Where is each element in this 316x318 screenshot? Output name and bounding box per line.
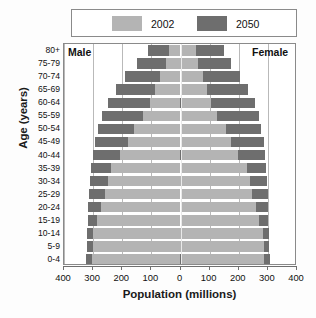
bar-2002-female <box>181 228 263 239</box>
age-tick-label: 75-79 <box>22 59 60 68</box>
x-axis-tick <box>180 266 181 270</box>
age-tick-label: 5-9 <box>22 242 60 251</box>
bar-2002-male <box>92 254 181 265</box>
age-tick-label: 15-19 <box>22 216 60 225</box>
bar-2002-male <box>160 71 180 82</box>
bar-2002-female <box>181 58 198 69</box>
bar-2002-female <box>181 45 196 56</box>
x-axis-tick <box>121 266 122 270</box>
pyramid-row <box>64 215 295 226</box>
bar-2002-male <box>93 241 180 252</box>
bar-2002-female <box>181 254 265 265</box>
male-side-label: Male <box>68 46 91 58</box>
center-line <box>181 44 182 264</box>
age-tick-label: 10-14 <box>22 229 60 238</box>
bar-2002-male <box>155 84 181 95</box>
bar-2002-female <box>181 137 231 148</box>
bar-2002-male <box>150 98 181 109</box>
pyramid-row <box>64 228 295 239</box>
age-tick-label: 70-74 <box>22 72 60 81</box>
age-tick-label: 30-34 <box>22 177 60 186</box>
legend-label-2002: 2002 <box>151 18 174 30</box>
bar-2002-male <box>128 137 180 148</box>
pyramid-row <box>64 150 295 161</box>
y-axis-tick-labels: 80+75-7970-7465-6960-6455-5950-5445-4940… <box>22 44 60 264</box>
chart-legend: 2002 2050 <box>71 9 297 37</box>
bar-2002-male <box>169 45 180 56</box>
x-axis-tick <box>63 266 64 270</box>
pyramid-row <box>64 98 295 109</box>
legend-swatch-2050 <box>197 16 227 31</box>
x-axis-tick <box>92 266 93 270</box>
age-tick-label: 80+ <box>22 46 60 55</box>
x-axis-tick <box>209 266 210 270</box>
pyramid-row <box>64 84 295 95</box>
x-axis-tick-label: 400 <box>276 272 316 283</box>
bar-2002-female <box>181 202 256 213</box>
age-tick-label: 0-4 <box>22 255 60 264</box>
female-side-label: Female <box>252 46 288 58</box>
bar-2002-female <box>181 84 208 95</box>
legend-item-2050: 2050 <box>197 15 259 32</box>
bar-2002-female <box>181 215 259 226</box>
age-tick-label: 60-64 <box>22 98 60 107</box>
age-tick-label: 45-49 <box>22 137 60 146</box>
bar-2002-male <box>143 111 180 122</box>
age-tick-label: 25-29 <box>22 190 60 199</box>
population-pyramid-figure: Age (years) 80+75-7970-7465-6960-6455-59… <box>0 0 316 318</box>
pyramid-row <box>64 163 295 174</box>
pyramid-row <box>64 111 295 122</box>
age-tick-label: 20-24 <box>22 203 60 212</box>
bar-2002-male <box>111 163 181 174</box>
x-axis-tick <box>150 266 151 270</box>
pyramid-row <box>64 254 295 265</box>
bar-2002-female <box>181 189 252 200</box>
bar-2002-male <box>93 228 180 239</box>
x-axis-tick <box>267 266 268 270</box>
bar-2002-female <box>181 150 239 161</box>
bar-2002-female <box>181 98 212 109</box>
age-tick-label: 50-54 <box>22 124 60 133</box>
bar-2002-male <box>97 215 180 226</box>
pyramid-row <box>64 58 295 69</box>
pyramid-row <box>64 71 295 82</box>
pyramid-row <box>64 241 295 252</box>
bar-2002-female <box>181 111 218 122</box>
bar-2002-female <box>181 71 204 82</box>
legend-item-2002: 2002 <box>112 15 174 32</box>
pyramid-row <box>64 202 295 213</box>
bar-2002-female <box>181 163 247 174</box>
bar-2002-female <box>181 241 264 252</box>
bar-2002-male <box>120 150 181 161</box>
bar-2002-male <box>101 202 180 213</box>
age-tick-label: 40-44 <box>22 151 60 160</box>
bar-2002-male <box>108 176 181 187</box>
bar-2002-male <box>134 124 181 135</box>
pyramid-row <box>64 189 295 200</box>
age-tick-label: 55-59 <box>22 111 60 120</box>
bar-2002-female <box>181 176 250 187</box>
pyramid-row <box>64 137 295 148</box>
x-axis-tick <box>296 266 297 270</box>
bar-2002-female <box>181 124 226 135</box>
legend-label-2050: 2050 <box>236 18 259 30</box>
pyramid-row <box>64 176 295 187</box>
bar-2002-male <box>105 189 180 200</box>
pyramid-row <box>64 124 295 135</box>
x-axis-tick <box>238 266 239 270</box>
plot-area <box>63 43 296 265</box>
age-tick-label: 65-69 <box>22 85 60 94</box>
x-axis-title: Population (millions) <box>63 288 296 300</box>
legend-swatch-2002 <box>112 16 142 31</box>
age-tick-label: 35-39 <box>22 164 60 173</box>
bar-2002-male <box>166 58 181 69</box>
